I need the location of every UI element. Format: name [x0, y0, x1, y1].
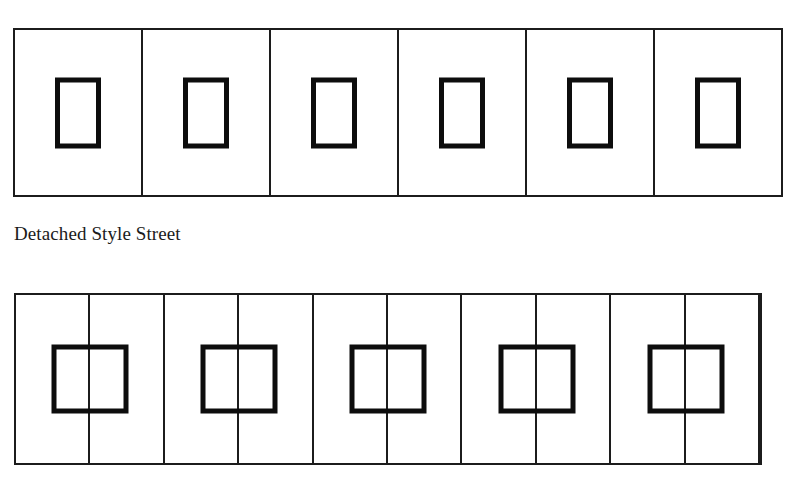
street-layout-figure: Detached Style Street: [0, 0, 797, 487]
plot: [527, 30, 655, 195]
plot: [15, 30, 143, 195]
plot: [462, 295, 536, 463]
semi-detached-street-block: [14, 293, 762, 465]
detached-house-footprint: [695, 77, 741, 148]
detached-house-footprint: [311, 77, 357, 148]
plot: [143, 30, 271, 195]
detached-house-footprint: [439, 77, 485, 148]
plot: [686, 295, 760, 463]
detached-house-footprint: [183, 77, 229, 148]
plot: [271, 30, 399, 195]
plot: [399, 30, 527, 195]
plot: [239, 295, 313, 463]
detached-house-footprint: [55, 77, 101, 148]
plot: [165, 295, 239, 463]
detached-street-block: [13, 28, 783, 197]
plot: [537, 295, 611, 463]
plot: [16, 295, 90, 463]
plot: [655, 30, 781, 195]
plot: [611, 295, 685, 463]
plot: [314, 295, 388, 463]
detached-house-footprint: [567, 77, 613, 148]
plot: [90, 295, 164, 463]
plot: [388, 295, 462, 463]
detached-street-caption: Detached Style Street: [14, 224, 181, 243]
